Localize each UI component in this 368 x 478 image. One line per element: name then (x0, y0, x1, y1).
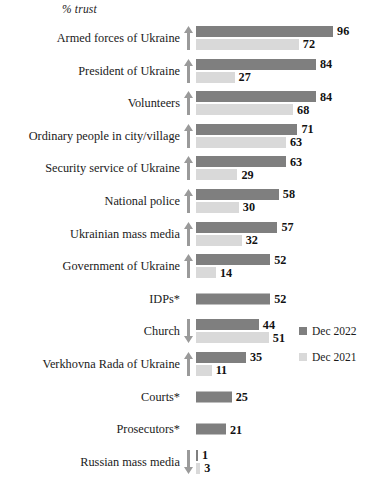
bar-fill-dec-2022 (196, 59, 316, 70)
row-label: Ukrainian mass media (70, 227, 180, 240)
chart-row: Russian mass media13 (0, 446, 368, 478)
bar-value-label: 84 (320, 91, 332, 103)
bar-value-label: 72 (303, 38, 315, 50)
bar-fill-dec-2021 (196, 202, 239, 213)
bar-fill-dec-2021 (196, 463, 200, 474)
bar-dec-2021[interactable]: 68 (196, 104, 368, 115)
trend-up-arrow-icon (183, 253, 194, 279)
bar-dec-2021[interactable]: 11 (196, 365, 368, 376)
axis-title: % trust (62, 3, 97, 15)
bar-dec-2021[interactable]: 3 (196, 463, 368, 474)
bar-fill-dec-2021 (196, 39, 299, 50)
row-bars: 5214 (196, 254, 368, 278)
bar-value-label: 57 (281, 221, 293, 233)
chart-row: Armed forces of Ukraine9672 (0, 22, 368, 54)
bar-fill-dec-2022 (196, 124, 297, 135)
row-bars: 13 (196, 450, 368, 474)
row-label: Volunteers (128, 97, 180, 110)
bar-fill-dec-2022 (196, 450, 198, 461)
bar-value-label: 63 (290, 136, 302, 148)
bar-value-label: 51 (273, 332, 285, 344)
bar-fill-dec-2021 (196, 137, 286, 148)
bar-fill-dec-2021 (196, 235, 242, 246)
row-label: Ordinary people in city/village (29, 129, 180, 142)
bar-fill-dec-2022 (196, 319, 259, 330)
trend-up-arrow-icon (183, 58, 194, 84)
bar-dec-2022[interactable]: 58 (196, 189, 368, 200)
bar-dec-2021[interactable]: 14 (196, 267, 368, 278)
chart-row: IDPs*52 (0, 283, 368, 315)
bar-dec-2022[interactable]: 21 (196, 424, 368, 435)
bar-dec-2021[interactable]: 30 (196, 202, 368, 213)
row-label: Verkhovna Rada of Ukraine (42, 358, 180, 371)
bar-value-label: 63 (290, 156, 302, 168)
bar-dec-2021[interactable]: 72 (196, 39, 368, 50)
bar-fill-dec-2021 (196, 169, 237, 180)
row-label: Church (144, 325, 180, 338)
bar-dec-2021[interactable]: 27 (196, 72, 368, 83)
chart-row: Courts*25 (0, 381, 368, 413)
bar-dec-2021[interactable]: 63 (196, 137, 368, 148)
bar-dec-2022[interactable]: 57 (196, 222, 368, 233)
bar-dec-2022[interactable]: 25 (196, 391, 368, 402)
bar-dec-2021[interactable]: 32 (196, 235, 368, 246)
bar-fill-dec-2022 (196, 189, 279, 200)
row-bars: 8468 (196, 91, 368, 115)
bar-fill-dec-2022 (196, 293, 270, 304)
bar-fill-dec-2021 (196, 72, 235, 83)
trend-down-arrow-icon (183, 449, 194, 475)
bar-value-label: 52 (274, 293, 286, 305)
bar-fill-dec-2022 (196, 26, 333, 37)
bar-value-label: 27 (239, 71, 251, 83)
bar-dec-2022[interactable]: 96 (196, 26, 368, 37)
trend-up-arrow-icon (183, 188, 194, 214)
bar-value-label: 58 (283, 188, 295, 200)
bar-dec-2022[interactable]: 84 (196, 59, 368, 70)
bar-dec-2022[interactable]: 71 (196, 124, 368, 135)
bar-fill-dec-2022 (196, 222, 277, 233)
bar-fill-dec-2022 (196, 391, 232, 402)
bar-value-label: 14 (220, 267, 232, 279)
row-bars: 9672 (196, 26, 368, 50)
bar-value-label: 30 (243, 201, 255, 213)
legend-swatch-dec-2021 (299, 353, 307, 361)
bar-fill-dec-2021 (196, 104, 293, 115)
bar-dec-2022[interactable]: 63 (196, 156, 368, 167)
row-label: Russian mass media (80, 455, 180, 468)
row-label: IDPs* (149, 292, 180, 305)
legend-item-dec-2021[interactable]: Dec 2021 (299, 351, 356, 363)
trend-up-arrow-icon (183, 155, 194, 181)
bar-dec-2022[interactable]: 52 (196, 254, 368, 265)
row-label: Security service of Ukraine (45, 162, 180, 175)
bar-dec-2022[interactable]: 84 (196, 91, 368, 102)
chart-row: Ukrainian mass media5732 (0, 218, 368, 250)
bar-fill-dec-2022 (196, 91, 316, 102)
bar-value-label: 29 (241, 169, 253, 181)
legend-item-dec-2022[interactable]: Dec 2022 (299, 325, 356, 337)
bar-dec-2022[interactable]: 1 (196, 450, 368, 461)
legend-label-dec-2022: Dec 2022 (312, 325, 356, 337)
chart-row: National police5830 (0, 185, 368, 217)
bar-value-label: 44 (263, 319, 275, 331)
bar-dec-2022[interactable]: 52 (196, 293, 368, 304)
bar-value-label: 11 (216, 364, 228, 376)
trend-up-arrow-icon (183, 25, 194, 51)
bar-value-label: 71 (301, 123, 313, 135)
chart-row: Government of Ukraine5214 (0, 250, 368, 282)
bar-dec-2021[interactable]: 29 (196, 169, 368, 180)
bar-value-label: 52 (274, 254, 286, 266)
row-bars: 6329 (196, 156, 368, 180)
chart-row: Volunteers8468 (0, 87, 368, 119)
row-label: President of Ukraine (78, 64, 180, 77)
bar-fill-dec-2021 (196, 267, 216, 278)
row-bars: 21 (196, 424, 368, 435)
trend-up-arrow-icon (183, 221, 194, 247)
bar-value-label: 35 (250, 351, 262, 363)
chart-row: Prosecutors*21 (0, 413, 368, 445)
row-bars: 8427 (196, 59, 368, 83)
chart-row: President of Ukraine8427 (0, 55, 368, 87)
row-label: Armed forces of Ukraine (57, 32, 180, 45)
legend-label-dec-2021: Dec 2021 (312, 351, 356, 363)
trend-up-arrow-icon (183, 123, 194, 149)
